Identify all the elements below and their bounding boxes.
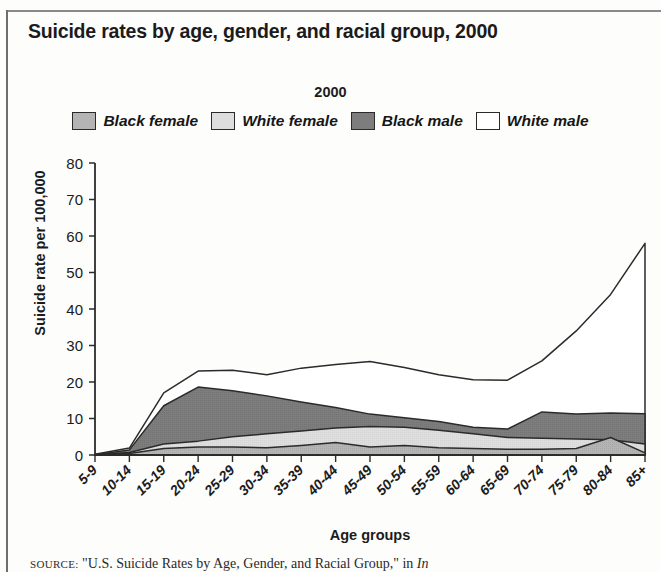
x-axis-title: Age groups xyxy=(95,527,645,543)
source-label: SOURCE: xyxy=(30,558,79,570)
x-tick-label: 35-39 xyxy=(270,462,307,499)
y-tick-label: 80 xyxy=(66,155,83,172)
x-tick-label: 85+ xyxy=(622,462,650,490)
y-tick-label: 40 xyxy=(66,301,83,318)
y-tick-labels: 01020304050607080 xyxy=(66,155,83,464)
x-tick-label: 65-69 xyxy=(476,462,513,499)
x-tick-label: 10-14 xyxy=(98,462,135,499)
x-tick-label: 40-44 xyxy=(303,462,340,499)
source-note: SOURCE: "U.S. Suicide Rates by Age, Gend… xyxy=(30,556,428,572)
y-tick-label: 20 xyxy=(66,374,83,391)
source-text: "U.S. Suicide Rates by Age, Gender, and … xyxy=(79,556,417,571)
x-tick-label: 50-54 xyxy=(373,462,410,499)
x-tick-label: 60-64 xyxy=(442,462,479,499)
x-tick-label: 15-19 xyxy=(132,462,169,499)
x-tick-label: 45-49 xyxy=(338,462,375,499)
x-tick-label: 70-74 xyxy=(510,462,547,499)
chart-plot: 01020304050607080 5-910-1415-1920-2425-2… xyxy=(0,0,661,530)
x-tick-label: 20-24 xyxy=(166,462,203,499)
x-tick-label: 75-79 xyxy=(545,462,582,499)
source-italic-tail: In xyxy=(417,556,429,571)
y-tick-label: 50 xyxy=(66,264,83,281)
x-tick-labels: 5-910-1415-1920-2425-2930-3435-3940-4445… xyxy=(74,462,650,499)
y-tick-label: 0 xyxy=(75,447,83,464)
x-tick-label: 80-84 xyxy=(579,462,616,499)
y-tick-label: 60 xyxy=(66,228,83,245)
figure-page: Suicide rates by age, gender, and racial… xyxy=(0,0,661,572)
x-tick-label: 55-59 xyxy=(407,462,444,499)
x-tick-label: 30-34 xyxy=(235,462,272,499)
chart-areas xyxy=(95,243,645,455)
x-tick-label: 5-9 xyxy=(74,462,100,488)
y-tick-label: 30 xyxy=(66,337,83,354)
x-tick-label: 25-29 xyxy=(200,462,237,499)
y-tick-label: 10 xyxy=(66,410,83,427)
y-tick-label: 70 xyxy=(66,191,83,208)
